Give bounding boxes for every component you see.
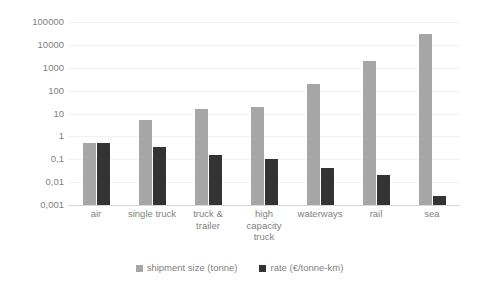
- bar-group: [348, 22, 404, 205]
- x-tick-label-line: high: [236, 208, 292, 220]
- bar-group: [292, 22, 348, 205]
- bar: [307, 84, 320, 205]
- bar: [419, 34, 432, 205]
- y-tick-label: 10000: [0, 40, 64, 50]
- bar: [83, 143, 96, 205]
- y-tick-label: 10: [0, 109, 64, 119]
- legend-swatch-icon: [136, 265, 143, 272]
- bar: [251, 107, 264, 205]
- y-tick-label: 1000: [0, 63, 64, 73]
- bar-group: [68, 22, 124, 205]
- bar-group: [236, 22, 292, 205]
- x-tick-label: air: [68, 208, 124, 220]
- bar: [377, 175, 390, 205]
- bar: [363, 61, 376, 205]
- x-tick-label-line: truck &: [180, 208, 236, 220]
- x-tick-label-line: trailer: [180, 220, 236, 232]
- y-tick-label: 0,01: [0, 177, 64, 187]
- y-tick-label: 0,001: [0, 200, 64, 210]
- bar-chart-figure: 1000001000010001001010,10,010,001 airsin…: [0, 0, 479, 291]
- x-tick-label: waterways: [292, 208, 348, 220]
- legend-entry[interactable]: rate (€/tonne-km): [259, 263, 343, 273]
- bar: [433, 196, 446, 205]
- x-tick-label-line: sea: [404, 208, 460, 220]
- legend-swatch-icon: [259, 265, 266, 272]
- x-tick-label-line: rail: [348, 208, 404, 220]
- x-tick-label-line: waterways: [292, 208, 348, 220]
- x-tick-label-line: truck: [236, 231, 292, 243]
- y-tick-label: 0,1: [0, 154, 64, 164]
- x-axis: airsingle trucktruck &trailerhighcapacit…: [68, 208, 460, 256]
- y-tick-label: 1: [0, 131, 64, 141]
- x-tick-label: sea: [404, 208, 460, 220]
- y-tick-label: 100000: [0, 17, 64, 27]
- legend-label: rate (€/tonne-km): [270, 263, 343, 273]
- bar-group: [404, 22, 460, 205]
- x-tick-label: highcapacitytruck: [236, 208, 292, 243]
- plot-area: [68, 22, 460, 205]
- bar: [265, 159, 278, 205]
- x-tick-label: truck &trailer: [180, 208, 236, 231]
- bar: [97, 143, 110, 205]
- gridline: [68, 205, 460, 206]
- chart-legend: shipment size (tonne)rate (€/tonne-km): [0, 263, 479, 273]
- x-tick-label-line: air: [68, 208, 124, 220]
- y-tick-label: 100: [0, 86, 64, 96]
- x-tick-label: single truck: [124, 208, 180, 220]
- bar-group: [180, 22, 236, 205]
- bar: [321, 168, 334, 205]
- legend-entry[interactable]: shipment size (tonne): [136, 263, 238, 273]
- bar: [139, 120, 152, 205]
- legend-label: shipment size (tonne): [147, 263, 238, 273]
- x-tick-label-line: single truck: [124, 208, 180, 220]
- x-tick-label-line: capacity: [236, 220, 292, 232]
- x-tick-label: rail: [348, 208, 404, 220]
- bar: [195, 109, 208, 205]
- bars-layer: [68, 22, 460, 205]
- bar: [153, 147, 166, 205]
- bar: [209, 155, 222, 205]
- bar-group: [124, 22, 180, 205]
- y-axis: 1000001000010001001010,10,010,001: [0, 0, 64, 291]
